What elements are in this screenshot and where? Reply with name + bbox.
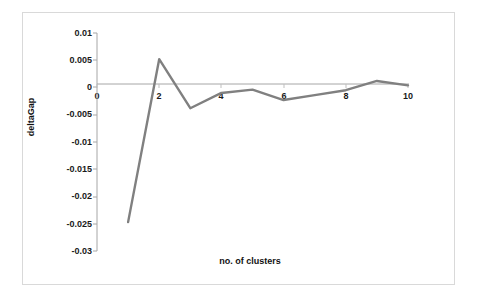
y-tick-label-7: -0.025 bbox=[36, 220, 92, 229]
x-tick-label-4: 8 bbox=[334, 92, 358, 101]
y-tick-label-5: -0.015 bbox=[36, 165, 92, 174]
y-tick-label-0: 0.01 bbox=[36, 29, 92, 38]
x-tick-label-5: 10 bbox=[396, 92, 420, 101]
y-tick-label-8: -0.03 bbox=[36, 247, 92, 256]
x-tick-label-2: 4 bbox=[209, 92, 233, 101]
x-axis-title: no. of clusters bbox=[150, 256, 350, 266]
chart-border bbox=[22, 12, 455, 285]
y-tick-label-3: -0.005 bbox=[36, 110, 92, 119]
y-tick-label-6: -0.02 bbox=[36, 192, 92, 201]
y-tick-label-4: -0.01 bbox=[36, 138, 92, 147]
x-tick-label-0: 0 bbox=[85, 92, 109, 101]
y-axis-title: deltaGap bbox=[26, 82, 36, 152]
x-tick-label-3: 6 bbox=[272, 92, 296, 101]
y-tick-label-1: 0.005 bbox=[36, 56, 92, 65]
y-tick-label-2: 0 bbox=[36, 83, 92, 92]
x-tick-label-1: 2 bbox=[147, 92, 171, 101]
chart-figure: 0.01 0.005 0 -0.005 -0.01 -0.015 -0.02 -… bbox=[0, 0, 477, 298]
